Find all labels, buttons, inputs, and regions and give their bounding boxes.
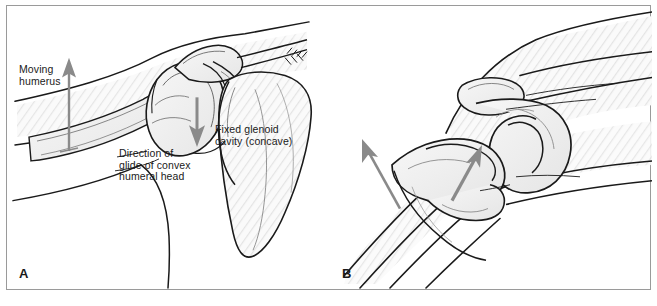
panel-a-shoulder: A Moving humerus Direction of glide of c… <box>7 6 330 289</box>
label-fixed-glenoid-cavity: Fixed glenoid cavity (concave) <box>215 124 292 147</box>
panel-letter-a: A <box>19 266 28 281</box>
figure-frame: A Moving humerus Direction of glide of c… <box>6 5 651 290</box>
scapula-glenoid <box>218 72 311 257</box>
label-moving-humerus: Moving humerus <box>19 64 61 87</box>
anatomy-figure: A Moving humerus Direction of glide of c… <box>0 0 657 306</box>
panel-b-knee: B Moving tibia Fixed femoral condyles (c… <box>330 6 652 289</box>
knee-illustration <box>330 6 652 289</box>
figure-caption <box>6 295 651 306</box>
panel-letter-b: B <box>342 266 351 281</box>
label-glide-convex-humeral-head: Direction of glide of convex humeral hea… <box>119 148 191 183</box>
